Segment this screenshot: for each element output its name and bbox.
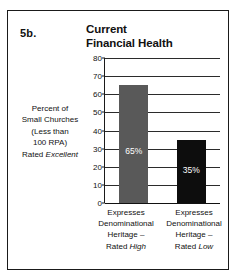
y-tick-label-10: 10: [93, 180, 102, 189]
y-caption-line-1: Percent of: [12, 103, 88, 114]
category-0-line-2: Denominational: [90, 218, 162, 229]
chart-title-line-2: Financial Health: [86, 37, 226, 51]
y-caption-line-5-emphasis: Excellent: [46, 150, 78, 159]
gridline-70: [105, 76, 220, 77]
y-caption-line-5: Rated Excellent: [12, 149, 88, 160]
y-tick-label-70: 70: [93, 72, 102, 81]
category-1-line-2: Denominational: [158, 218, 230, 229]
bar-value-label-0: 65%: [119, 146, 148, 156]
bar-0[interactable]: 65%: [119, 85, 148, 203]
category-0-line-1: Expresses: [90, 207, 162, 218]
chart-title-line-1: Current: [86, 23, 226, 37]
tick-mark-0: [102, 203, 105, 204]
chart-title: Current Financial Health: [86, 23, 226, 50]
tick-mark-40: [102, 130, 105, 131]
category-1-line-1: Expresses: [158, 207, 230, 218]
bar-1[interactable]: 35%: [177, 140, 206, 203]
tick-mark-10: [102, 184, 105, 185]
bar-value-label-1: 35%: [177, 165, 206, 175]
tick-mark-70: [102, 76, 105, 77]
y-tick-label-20: 20: [93, 162, 102, 171]
plot-area: 01020304050607080 65%35%: [104, 58, 220, 203]
category-0-line-4-emphasis: High: [130, 242, 146, 251]
y-tick-label-40: 40: [93, 126, 102, 135]
tick-mark-60: [102, 94, 105, 95]
y-caption-line-4: 100 RPA): [12, 137, 88, 148]
y-caption-line-3: (Less than: [12, 126, 88, 137]
gridline-0: [105, 203, 220, 204]
category-1-line-3: Heritage –: [158, 229, 230, 240]
y-tick-label-30: 30: [93, 144, 102, 153]
category-0-line-3: Heritage –: [90, 229, 162, 240]
y-caption-line-5-prefix: Rated: [22, 150, 46, 159]
category-1-line-4-emphasis: Low: [198, 242, 213, 251]
gridline-80: [105, 58, 220, 59]
y-tick-label-80: 80: [93, 54, 102, 63]
tick-mark-30: [102, 148, 105, 149]
category-1-line-4-prefix: Rated: [175, 242, 199, 251]
category-1-line-4: Rated Low: [158, 241, 230, 252]
y-axis-caption: Percent of Small Churches (Less than 100…: [12, 103, 88, 160]
category-0-line-4-prefix: Rated: [106, 242, 130, 251]
figure-number: 5b.: [20, 27, 37, 39]
category-label-low: Expresses Denominational Heritage – Rate…: [158, 207, 230, 252]
category-label-high: Expresses Denominational Heritage – Rate…: [90, 207, 162, 252]
y-caption-line-2: Small Churches: [12, 114, 88, 125]
category-0-line-4: Rated High: [90, 241, 162, 252]
plot-wrapper: 01020304050607080 65%35%: [104, 58, 220, 203]
tick-mark-80: [102, 58, 105, 59]
y-tick-label-50: 50: [93, 108, 102, 117]
y-tick-label-60: 60: [93, 90, 102, 99]
tick-mark-50: [102, 112, 105, 113]
tick-mark-20: [102, 166, 105, 167]
figure-frame: 5b. Current Financial Health Percent of …: [7, 10, 229, 270]
